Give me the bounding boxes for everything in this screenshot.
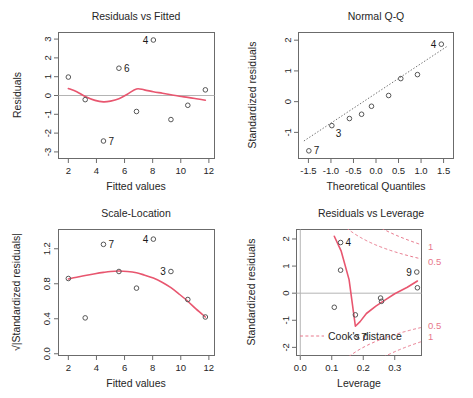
residuals-vs-fitted-svg: Residuals vs Fitted -3-2-10123 Residuals… xyxy=(0,0,236,199)
y-tick-label: -2 xyxy=(42,129,53,137)
panel-title: Normal Q-Q xyxy=(348,10,405,22)
y-tick-label: -1 xyxy=(282,128,293,136)
point-label: 6 xyxy=(124,63,130,74)
x-axis-label: Fitted values xyxy=(106,180,166,192)
loess-curve xyxy=(68,271,205,317)
point-label: 7 xyxy=(314,145,320,156)
normal-qq-svg: Normal Q-Q -1012 Standardized residuals … xyxy=(236,0,473,199)
point-label: 9 xyxy=(406,267,412,278)
x-axis: 24681012 Fitted values xyxy=(63,356,214,390)
data-point xyxy=(307,149,312,154)
data-point xyxy=(414,270,419,275)
x-tick-label: 4 xyxy=(94,362,99,373)
qq-reference-line xyxy=(304,46,448,141)
point-labels: 437 xyxy=(314,39,437,157)
x-axis-label: Theoretical Quantiles xyxy=(326,180,425,192)
y-tick-label: 0 xyxy=(280,291,291,296)
x-tick-label: 6 xyxy=(122,165,127,176)
data-points xyxy=(307,42,444,153)
x-tick-label: 2 xyxy=(66,165,71,176)
y-tick-label: -2 xyxy=(280,343,291,351)
y-axis: 0.00.40.81.2 √|Standardized residuals| xyxy=(10,233,59,360)
cook-contour xyxy=(344,199,421,245)
y-axis: -3-2-10123 Residuals xyxy=(11,36,59,156)
data-points xyxy=(66,38,208,144)
y-axis-label: Standardized residuals xyxy=(246,42,258,149)
cook-contour-label: 1 xyxy=(428,241,433,252)
cook-contour-label: 0.5 xyxy=(428,256,441,267)
point-label: 7 xyxy=(108,239,114,250)
y-axis: -2-1012 Standardized residuals xyxy=(245,235,297,352)
y-axis-label: √|Standardized residuals| xyxy=(10,233,22,351)
panel-title: Scale-Location xyxy=(101,207,171,219)
y-axis-label: Residuals xyxy=(11,72,23,118)
data-point xyxy=(66,75,71,80)
loess-curve xyxy=(334,236,417,326)
x-tick-label: 8 xyxy=(150,362,155,373)
data-point xyxy=(338,268,343,273)
x-tick-label: 6 xyxy=(122,362,127,373)
x-tick-label: 0.2 xyxy=(357,362,370,373)
x-tick-label: 1.0 xyxy=(414,165,427,176)
data-point xyxy=(169,117,174,122)
point-label: 4 xyxy=(143,234,149,245)
data-point xyxy=(415,285,420,290)
point-labels: 467 xyxy=(108,35,148,147)
x-tick-label: 4 xyxy=(94,165,99,176)
x-axis-label: Leverage xyxy=(337,377,381,389)
x-tick-label: 10 xyxy=(175,362,186,373)
data-point xyxy=(117,66,122,71)
data-point xyxy=(151,237,156,242)
data-point xyxy=(359,112,364,117)
x-tick-label: 0.5 xyxy=(392,165,405,176)
cook-contour-label: 1 xyxy=(428,331,433,342)
x-tick-label: -0.5 xyxy=(345,165,361,176)
data-point xyxy=(169,269,174,274)
y-tick-label: 0.8 xyxy=(41,277,52,290)
y-tick-label: 1.2 xyxy=(41,242,52,255)
data-point xyxy=(386,93,391,98)
data-point xyxy=(369,104,374,109)
data-point xyxy=(347,116,352,121)
x-tick-label: 0.1 xyxy=(325,362,338,373)
x-axis: -1.5-1.0-0.50.00.51.01.5 Theoretical Qua… xyxy=(300,159,450,193)
panel-normal-qq: Normal Q-Q -1012 Standardized residuals … xyxy=(236,0,473,199)
y-tick-label: 0 xyxy=(42,93,53,98)
y-tick-label: 3 xyxy=(42,36,53,41)
x-tick-label: 12 xyxy=(204,362,215,373)
x-tick-label: 0.0 xyxy=(294,362,307,373)
panel-residuals-vs-leverage: Residuals vs Leverage -2-1012 Standardiz… xyxy=(236,199,473,398)
diagnostic-plot-grid: Residuals vs Fitted -3-2-10123 Residuals… xyxy=(0,0,473,398)
loess-smoother xyxy=(334,236,417,326)
point-label: 4 xyxy=(431,39,437,50)
x-axis: 24681012 Fitted values xyxy=(63,159,214,193)
point-label: 4 xyxy=(143,35,149,46)
data-point xyxy=(203,88,208,93)
plot-frame xyxy=(59,230,215,356)
x-tick-label: -1.5 xyxy=(300,165,316,176)
y-tick-label: 1 xyxy=(282,68,293,73)
y-tick-label: 0 xyxy=(282,99,293,104)
qq-line xyxy=(304,46,448,141)
point-label: 3 xyxy=(336,128,342,139)
x-tick-label: 0.3 xyxy=(388,362,401,373)
data-point xyxy=(186,103,191,108)
panel-title: Residuals vs Leverage xyxy=(318,207,424,219)
y-tick-label: 0.4 xyxy=(41,312,52,325)
y-tick-label: -3 xyxy=(42,148,53,156)
x-axis: 0.00.10.20.3 Leverage xyxy=(294,356,418,390)
cook-contour-label: 0.5 xyxy=(428,320,441,331)
data-point xyxy=(330,123,335,128)
legend-label: Cook's distance xyxy=(328,330,402,342)
y-tick-label: -1 xyxy=(280,316,291,324)
cooks-distance-legend: Cook's distance xyxy=(300,330,402,342)
x-tick-label: 2 xyxy=(66,362,71,373)
data-point xyxy=(83,97,88,102)
x-tick-label: 8 xyxy=(150,165,155,176)
y-tick-label: 2 xyxy=(282,38,293,43)
data-points xyxy=(66,237,208,320)
y-tick-label: 2 xyxy=(280,236,291,241)
panel-title: Residuals vs Fitted xyxy=(92,10,181,22)
loess-smoother xyxy=(68,271,205,317)
x-tick-label: -1.0 xyxy=(323,165,339,176)
